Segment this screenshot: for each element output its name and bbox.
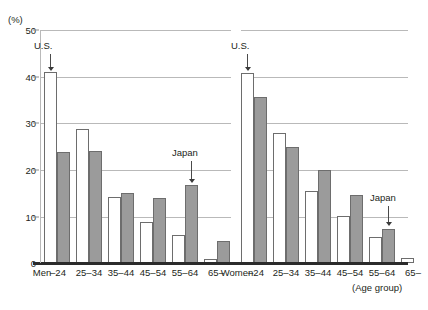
bar-men-35-44-us [108, 197, 121, 263]
bar-men-24-japan [57, 152, 70, 263]
y-axis-line [40, 30, 41, 263]
bar-men-45-54-us [140, 222, 153, 263]
annotation-label-japan-men: Japan [172, 147, 198, 158]
x-label-women-25-34: 25–34 [270, 267, 302, 278]
x-label-men-24: –24 [45, 267, 71, 278]
bar-men-35-44-japan [121, 193, 134, 263]
bar-chart: (%) 50 40 30 20 10 0 [0, 0, 428, 310]
annotation-arrowhead-japan-women [386, 222, 392, 226]
x-label-women-65: 65– [400, 267, 426, 278]
x-label-women-45-54: 45–54 [334, 267, 366, 278]
bar-men-24-us [44, 72, 57, 263]
bar-women-35-44-us [305, 191, 318, 263]
bar-women-24-japan [254, 97, 267, 263]
x-label-women-35-44: 35–44 [302, 267, 334, 278]
annotation-arrow-japan-women [388, 206, 389, 223]
bar-women-45-54-us [337, 216, 350, 263]
bar-men-45-54-japan [153, 198, 166, 263]
x-label-men-35-44: 35–44 [105, 267, 137, 278]
bar-men-65-japan [217, 241, 230, 263]
group-separator [231, 30, 241, 263]
annotation-arrow-japan-men [191, 161, 192, 180]
bar-women-24-us [241, 73, 254, 263]
x-label-women-55-64: 55–64 [366, 267, 398, 278]
annotation-arrow-us-men [50, 54, 51, 68]
annotation-arrow-us-women [247, 54, 248, 68]
x-label-men-25-34: 25–34 [73, 267, 105, 278]
bar-women-35-44-japan [318, 170, 331, 263]
annotation-label-us-men: U.S. [34, 40, 52, 51]
x-label-men-45-54: 45–54 [137, 267, 169, 278]
bar-women-45-54-japan [350, 195, 363, 263]
annotation-label-japan-women: Japan [370, 192, 396, 203]
bar-men-55-64-japan [185, 185, 198, 263]
annotation-arrowhead-us-women [245, 67, 251, 71]
annotation-arrowhead-japan-men [189, 179, 195, 183]
bar-men-55-64-us [172, 235, 185, 263]
annotation-label-us-women: U.S. [231, 40, 249, 51]
x-label-men-55-64: 55–64 [169, 267, 201, 278]
x-axis-title: (Age group) [352, 282, 402, 293]
bar-women-55-64-japan [382, 229, 395, 263]
bar-women-55-64-us [369, 237, 382, 263]
bar-men-25-34-japan [89, 151, 102, 263]
bar-women-25-34-japan [286, 147, 299, 263]
x-label-women-24: –24 [243, 267, 269, 278]
x-axis-baseline [33, 262, 408, 265]
bar-women-25-34-us [273, 133, 286, 263]
annotation-arrowhead-us-men [48, 67, 54, 71]
bar-men-25-34-us [76, 129, 89, 263]
